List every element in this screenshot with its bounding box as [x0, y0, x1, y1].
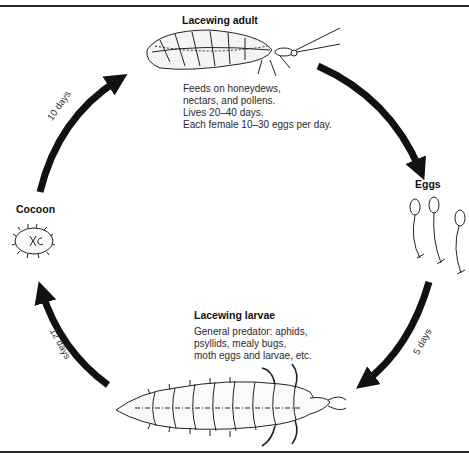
life-cycle-diagram	[0, 0, 469, 463]
stage-label-adult: Lacewing adult	[182, 14, 258, 26]
arrow-cocoon-to-adult	[40, 80, 118, 192]
stage-label-larvae: Lacewing larvae	[194, 309, 275, 321]
arrow-adult-to-eggs	[318, 66, 420, 170]
larvae-notes: General predator: aphids, psyllids, meal…	[194, 326, 312, 362]
stage-label-eggs: Eggs	[415, 178, 441, 190]
eggs-icon	[410, 197, 465, 274]
larvae-note-line: moth eggs and larvae, etc.	[194, 350, 312, 362]
larvae-note-line: General predator: aphids,	[194, 326, 312, 338]
larvae-note-line: psyllids, mealy bugs,	[194, 338, 312, 350]
cocoon-icon	[12, 224, 55, 258]
adult-note-line: nectars, and pollens.	[183, 95, 332, 107]
adult-notes: Feeds on honeydews, nectars, and pollens…	[183, 83, 332, 131]
lacewing-larva-icon	[116, 364, 346, 446]
adult-note-line: Each female 10–30 eggs per day.	[183, 119, 332, 131]
adult-note-line: Feeds on honeydews,	[183, 83, 332, 95]
adult-note-line: Lives 20–40 days.	[183, 107, 332, 119]
stage-label-cocoon: Cocoon	[16, 203, 55, 215]
lacewing-adult-icon	[147, 28, 340, 76]
